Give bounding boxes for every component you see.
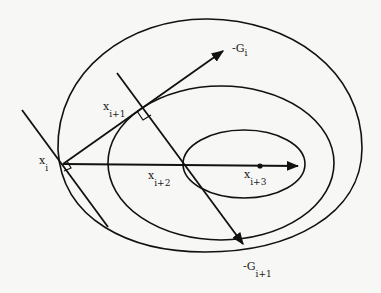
descent-diagram: xi xi+1 xi+2 xi+3 -Gi -Gi+1 (0, 0, 381, 293)
label-xi2: xi+2 (148, 169, 170, 188)
label-xi1: xi+1 (103, 100, 125, 119)
label-neg-g-i1: -Gi+1 (243, 260, 272, 279)
arrow-step-xi-xi3 (63, 164, 298, 166)
label-xi: xi (39, 154, 48, 173)
arrow-neg-g-i1 (117, 73, 243, 244)
tangent-line-xi (22, 110, 108, 227)
label-neg-g-i: -Gi (232, 42, 248, 58)
label-xi3: xi+3 (244, 168, 267, 187)
arrow-neg-g-i (63, 51, 223, 164)
point-xi3 (257, 163, 262, 168)
